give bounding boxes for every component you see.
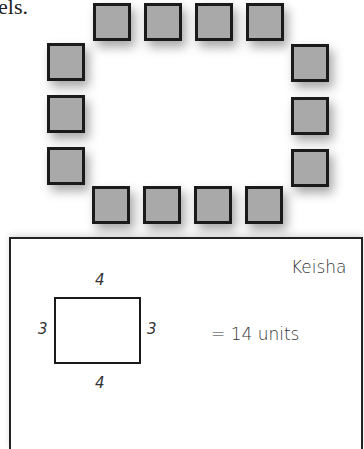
square-tile bbox=[93, 3, 131, 41]
square-tile bbox=[47, 147, 85, 185]
rect-bottom-label: 4 bbox=[95, 374, 105, 392]
student-name: Keisha bbox=[291, 257, 347, 277]
square-tile bbox=[291, 97, 329, 135]
perimeter-result: = 14 units bbox=[211, 324, 299, 344]
square-tile bbox=[291, 149, 329, 187]
square-tile bbox=[245, 186, 283, 224]
rect-left-label: 3 bbox=[38, 320, 48, 338]
square-tile bbox=[92, 186, 130, 224]
text-fragment: els. bbox=[0, 0, 28, 20]
rect-right-label: 3 bbox=[147, 320, 157, 338]
rect-top-label: 4 bbox=[95, 271, 105, 289]
student-work-box: Keisha 4 3 3 4 = 14 units bbox=[9, 237, 363, 449]
square-tile bbox=[246, 3, 284, 41]
square-tile bbox=[143, 186, 181, 224]
square-tile bbox=[47, 95, 85, 133]
square-tile bbox=[47, 43, 85, 81]
square-tile bbox=[194, 186, 232, 224]
square-tile bbox=[195, 3, 233, 41]
square-tile bbox=[291, 44, 329, 82]
square-tile bbox=[144, 3, 182, 41]
rectangle-drawing bbox=[54, 297, 141, 364]
